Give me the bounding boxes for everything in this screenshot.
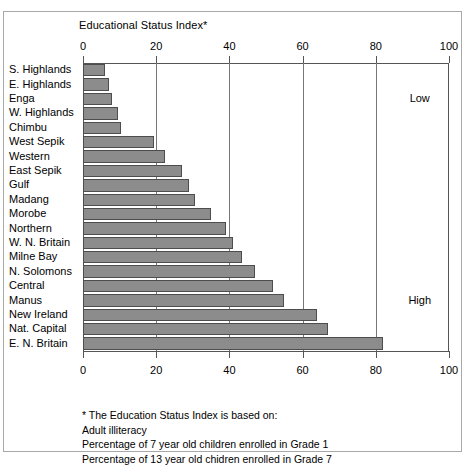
bar-row — [83, 77, 449, 91]
bar-row — [83, 308, 449, 322]
axis-tick-label: 80 — [370, 364, 382, 376]
bar[interactable] — [83, 208, 211, 220]
bars-layer — [83, 63, 449, 351]
bar-row — [83, 92, 449, 106]
bar[interactable] — [83, 136, 154, 148]
footnote-line: * The Education Status Index is based on… — [82, 408, 332, 423]
bar-row — [83, 264, 449, 278]
bar-row — [83, 164, 449, 178]
axis-tick — [376, 56, 377, 63]
bar-row — [83, 293, 449, 307]
category-label: Manus — [4, 294, 72, 307]
axis-tick-label: 40 — [223, 40, 235, 52]
bar-row — [83, 63, 449, 77]
bar[interactable] — [83, 222, 226, 234]
category-label: Madang — [4, 193, 72, 206]
annotation-high: High — [408, 294, 431, 306]
bar[interactable] — [83, 294, 284, 306]
axis-tick — [376, 351, 377, 358]
axis-tick — [229, 56, 230, 63]
category-label: W. N. Britain — [4, 236, 72, 249]
bar-row — [83, 106, 449, 120]
bar[interactable] — [83, 122, 121, 134]
bar-row — [83, 149, 449, 163]
bar-row — [83, 221, 449, 235]
axis-tick — [156, 56, 157, 63]
bar[interactable] — [83, 78, 109, 90]
category-label: Milne Bay — [4, 250, 72, 263]
bar[interactable] — [83, 179, 189, 191]
bar[interactable] — [83, 251, 242, 263]
axis-tick-label: 80 — [370, 40, 382, 52]
axis-tick-label: 0 — [80, 364, 86, 376]
bar-row — [83, 279, 449, 293]
category-label: Morobe — [4, 207, 72, 220]
bar[interactable] — [83, 280, 273, 292]
figure-frame: Educational Status Index* 00202040406060… — [3, 11, 462, 452]
category-label: E. N. Britain — [4, 337, 72, 350]
axis-tick-label: 0 — [80, 40, 86, 52]
bottom-axis-line — [83, 351, 449, 352]
bar[interactable] — [83, 265, 255, 277]
axis-tick-label: 60 — [296, 364, 308, 376]
axis-tick-label: 60 — [296, 40, 308, 52]
category-label: Northern — [4, 222, 72, 235]
bar-row — [83, 207, 449, 221]
category-label: Nat. Capital — [4, 322, 72, 335]
category-label: Central — [4, 279, 72, 292]
axis-tick — [83, 56, 84, 63]
axis-tick-label: 100 — [440, 40, 458, 52]
axis-tick — [83, 351, 84, 358]
bar[interactable] — [83, 64, 105, 76]
bar[interactable] — [83, 107, 118, 119]
category-label: West Sepik — [4, 135, 72, 148]
bar-row — [83, 322, 449, 336]
axis-tick — [449, 351, 450, 358]
axis-tick-label: 20 — [150, 40, 162, 52]
axis-tick — [156, 351, 157, 358]
chart-title: Educational Status Index* — [79, 19, 207, 31]
category-label: Western — [4, 150, 72, 163]
bar[interactable] — [83, 194, 195, 206]
bar[interactable] — [83, 93, 112, 105]
plot-area: LowHigh — [83, 63, 449, 351]
bar[interactable] — [83, 165, 182, 177]
bar-row — [83, 178, 449, 192]
category-label: Enga — [4, 92, 72, 105]
bar[interactable] — [83, 337, 383, 349]
category-label: New Ireland — [4, 308, 72, 321]
axis-tick — [229, 351, 230, 358]
footnote-line: Percentage of 7 year old children enroll… — [82, 437, 332, 452]
bar-row — [83, 193, 449, 207]
bar-row — [83, 250, 449, 264]
bar-row — [83, 336, 449, 350]
category-label: Gulf — [4, 178, 72, 191]
category-label: N. Solomons — [4, 265, 72, 278]
axis-tick — [303, 56, 304, 63]
footnote-line: Adult illiteracy — [82, 423, 332, 438]
bar-row — [83, 135, 449, 149]
axis-tick — [303, 351, 304, 358]
annotation-low: Low — [410, 92, 430, 104]
bar[interactable] — [83, 323, 328, 335]
bar[interactable] — [83, 237, 233, 249]
category-label: East Sepik — [4, 164, 72, 177]
footnote-line: Percentage of 13 year old chidren enroll… — [82, 452, 332, 466]
bar[interactable] — [83, 309, 317, 321]
axis-tick-label: 40 — [223, 364, 235, 376]
category-label: Chimbu — [4, 121, 72, 134]
axis-tick — [449, 56, 450, 63]
category-labels: S. HighlandsE. HighlandsEngaW. Highlands… — [4, 63, 78, 351]
bar-row — [83, 236, 449, 250]
axis-tick-label: 20 — [150, 364, 162, 376]
category-label: W. Highlands — [4, 106, 72, 119]
bar[interactable] — [83, 150, 165, 162]
bar-row — [83, 121, 449, 135]
category-label: S. Highlands — [4, 63, 72, 76]
footnote: * The Education Status Index is based on… — [82, 408, 332, 466]
category-label: E. Highlands — [4, 78, 72, 91]
axis-tick-label: 100 — [440, 364, 458, 376]
